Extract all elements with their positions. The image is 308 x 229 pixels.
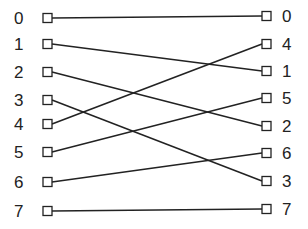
- right-node-box-5: [262, 94, 271, 103]
- right-node-box-0: [262, 12, 271, 21]
- left-node-box-4: [43, 120, 52, 129]
- left-node-box-2: [43, 68, 52, 77]
- left-node-label: 4: [14, 115, 23, 134]
- left-node-label: 6: [14, 173, 23, 192]
- edge-6-to-6: [52, 153, 262, 182]
- right-node-box-4: [262, 40, 271, 49]
- left-node-box-1: [43, 40, 52, 49]
- right-node-label: 0: [282, 7, 291, 26]
- permutation-diagram: 01234567 04152637: [0, 0, 308, 229]
- left-node-label: 7: [14, 202, 23, 221]
- left-node-label: 1: [14, 35, 23, 54]
- edge-7-to-7: [52, 209, 262, 211]
- edge-1-to-1: [52, 44, 262, 71]
- right-node-label: 7: [282, 200, 291, 219]
- left-column: 01234567: [14, 9, 52, 221]
- left-node-box-7: [43, 207, 52, 216]
- edge-0-to-0: [52, 16, 262, 18]
- right-node-label: 3: [282, 172, 291, 191]
- left-node-label: 3: [14, 91, 23, 110]
- right-node-box-2: [262, 122, 271, 131]
- right-column: 04152637: [262, 7, 291, 219]
- edge-4-to-4: [52, 44, 262, 124]
- right-node-box-1: [262, 67, 271, 76]
- edge-5-to-5: [52, 98, 262, 152]
- left-node-box-0: [43, 14, 52, 23]
- left-node-label: 2: [14, 63, 23, 82]
- left-node-box-6: [43, 178, 52, 187]
- right-node-box-6: [262, 149, 271, 158]
- right-node-box-7: [262, 205, 271, 214]
- left-node-box-3: [43, 96, 52, 105]
- left-node-label: 0: [14, 9, 23, 28]
- right-node-label: 1: [282, 62, 291, 81]
- right-node-box-3: [262, 177, 271, 186]
- edges: [52, 16, 262, 211]
- right-node-label: 4: [282, 35, 291, 54]
- right-node-label: 2: [282, 117, 291, 136]
- left-node-label: 5: [14, 143, 23, 162]
- left-node-box-5: [43, 148, 52, 157]
- edge-2-to-2: [52, 72, 262, 126]
- right-node-label: 5: [282, 89, 291, 108]
- right-node-label: 6: [282, 144, 291, 163]
